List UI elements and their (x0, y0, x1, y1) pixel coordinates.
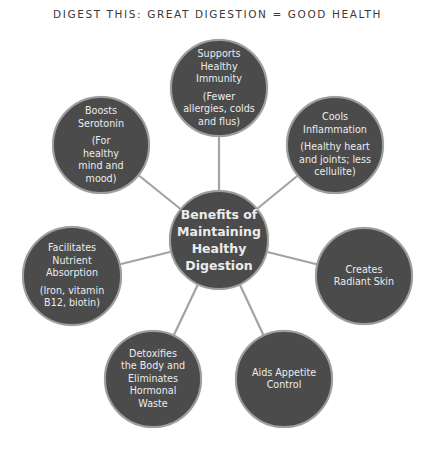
node-serotonin-label: Boosts Serotonin (74, 105, 128, 130)
node-absorption-detail: (Iron, vitamin B12, biotin) (38, 285, 106, 310)
center-node: Benefits of Maintaining Healthy Digestio… (169, 190, 269, 290)
node-skin-label: Creates Radiant Skin (331, 264, 397, 289)
node-detox: Detoxifies the Body and Eliminates Hormo… (104, 330, 202, 428)
node-inflammation-detail: (Healthy heart and joints; less cellulit… (298, 141, 372, 179)
node-serotonin: Boosts Serotonin (For healthy mind and m… (52, 96, 150, 194)
node-immunity-label: Supports Healthy Immunity (180, 48, 258, 86)
node-detox-label: Detoxifies the Body and Eliminates Hormo… (120, 348, 186, 411)
node-immunity-detail: (Fewer allergies, colds and flus) (180, 91, 258, 129)
node-skin: Creates Radiant Skin (315, 227, 413, 325)
node-inflammation-label: Cools Inflammation (298, 111, 372, 136)
node-appetite-label: Aids Appetite Control (251, 367, 317, 392)
node-absorption: Facilitates Nutrient Absorption (Iron, v… (22, 226, 122, 326)
node-absorption-label: Facilitates Nutrient Absorption (38, 242, 106, 280)
node-immunity: Supports Healthy Immunity (Fewer allergi… (170, 39, 268, 137)
node-inflammation: Cools Inflammation (Healthy heart and jo… (286, 96, 384, 194)
center-node-label: Benefits of Maintaining Healthy Digestio… (177, 206, 261, 274)
node-appetite: Aids Appetite Control (235, 330, 333, 428)
node-serotonin-detail: (For healthy mind and mood) (74, 135, 128, 185)
